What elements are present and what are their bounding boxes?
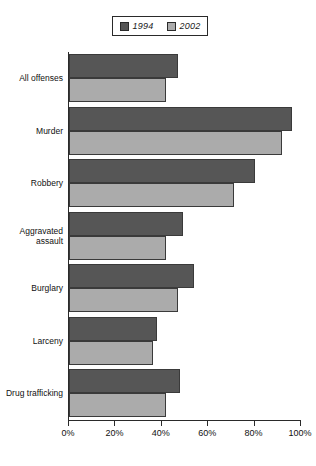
category-axis-labels: All offensesMurderRobberyAggravatedassau…	[0, 52, 63, 420]
x-tick-label-80: 80%	[234, 428, 274, 438]
x-tick-40	[161, 421, 162, 426]
legend-label-2002: 2002	[180, 22, 201, 31]
bar-2002-aggravated-assault	[69, 236, 166, 260]
bar-1994-drug-trafficking	[69, 369, 180, 393]
category-label-drug-trafficking: Drug trafficking	[1, 388, 63, 398]
bar-group	[69, 212, 301, 260]
category-label-robbery: Robbery	[1, 178, 63, 188]
x-tick-label-20: 20%	[94, 428, 134, 438]
bar-1994-aggravated-assault	[69, 212, 183, 236]
bar-1994-all-offenses	[69, 54, 178, 78]
bar-2002-larceny	[69, 341, 153, 365]
x-tick-label-100: 100%	[280, 428, 316, 438]
x-tick-label-60: 60%	[187, 428, 227, 438]
bar-2002-drug-trafficking	[69, 393, 166, 417]
category-label-burglary: Burglary	[1, 283, 63, 293]
x-tick-0	[68, 421, 69, 426]
x-axis-line	[68, 420, 301, 421]
bar-group	[69, 54, 301, 102]
legend-swatch-1994	[120, 22, 129, 31]
bar-2002-burglary	[69, 288, 178, 312]
chart-legend: 1994 2002	[112, 16, 208, 36]
legend-swatch-2002	[167, 22, 176, 31]
x-tick-60	[207, 421, 208, 426]
x-tick-label-40: 40%	[141, 428, 181, 438]
bar-group	[69, 107, 301, 155]
legend-label-1994: 1994	[133, 22, 154, 31]
bar-2002-all-offenses	[69, 78, 166, 102]
x-tick-label-0: 0%	[48, 428, 88, 438]
x-tick-100	[300, 421, 301, 426]
bar-1994-burglary	[69, 264, 194, 288]
legend-entry-1994: 1994	[120, 22, 154, 31]
chart-plot-area	[68, 52, 301, 420]
bar-1994-larceny	[69, 317, 157, 341]
bar-1994-robbery	[69, 159, 255, 183]
bar-group	[69, 369, 301, 417]
category-label-all-offenses: All offenses	[1, 73, 63, 83]
legend-entry-2002: 2002	[167, 22, 201, 31]
bar-2002-murder	[69, 131, 282, 155]
category-label-larceny: Larceny	[1, 336, 63, 346]
bar-2002-robbery	[69, 183, 234, 207]
category-label-aggravated-assault: Aggravatedassault	[1, 226, 63, 246]
bar-group	[69, 159, 301, 207]
bar-group	[69, 317, 301, 365]
category-label-murder: Murder	[1, 126, 63, 136]
bar-1994-murder	[69, 107, 292, 131]
x-tick-80	[254, 421, 255, 426]
x-tick-20	[114, 421, 115, 426]
bar-group	[69, 264, 301, 312]
